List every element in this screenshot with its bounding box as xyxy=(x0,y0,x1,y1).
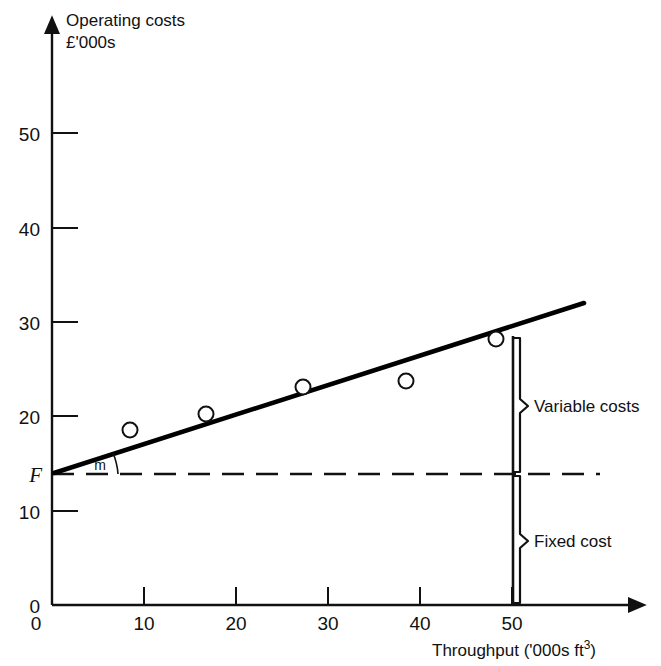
y-tick-label-20: 20 xyxy=(19,407,40,428)
y-tick-label-40: 40 xyxy=(19,219,40,240)
x-axis-title: Throughput ('000s ft3) xyxy=(432,638,596,660)
y-axis-title-line2: £'000s xyxy=(66,33,116,52)
data-point xyxy=(123,423,138,438)
intercept-label-f: F xyxy=(28,463,42,487)
y-tick-label-50: 50 xyxy=(19,124,40,145)
x-axis-title-tail: ) xyxy=(590,641,596,660)
x-tick-label-20: 20 xyxy=(225,613,246,634)
x-tick-label-50: 50 xyxy=(501,613,522,634)
x-tick-label-30: 30 xyxy=(317,613,338,634)
y-axis-title-line1: Operating costs xyxy=(66,11,185,30)
y-tick-label-30: 30 xyxy=(19,313,40,334)
x-tick-label-10: 10 xyxy=(133,613,154,634)
x-tick-label-40: 40 xyxy=(409,613,430,634)
data-point xyxy=(489,332,504,347)
chart-canvas: 0 10 20 30 40 50 0 10 20 30 40 50 Operat… xyxy=(0,0,661,666)
data-point xyxy=(399,374,414,389)
chart-background xyxy=(0,0,661,666)
x-tick-label-0: 0 xyxy=(31,613,42,634)
slope-label-m: m xyxy=(94,457,106,473)
operating-cost-chart: 0 10 20 30 40 50 0 10 20 30 40 50 Operat… xyxy=(0,0,661,666)
fixed-cost-label: Fixed cost xyxy=(534,532,612,551)
y-tick-label-10: 10 xyxy=(19,502,40,523)
x-axis-title-main: Throughput ('000s ft xyxy=(432,641,584,660)
svg-text:Throughput ('000s ft3): Throughput ('000s ft3) xyxy=(432,638,596,660)
data-point xyxy=(199,407,214,422)
variable-costs-label: Variable costs xyxy=(534,397,640,416)
data-point xyxy=(296,380,311,395)
